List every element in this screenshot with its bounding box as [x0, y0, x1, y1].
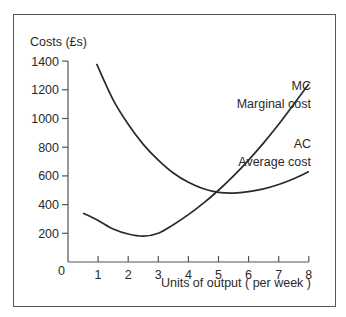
ac-label: AC — [294, 137, 311, 151]
ac-label-desc: Average cost — [238, 155, 311, 169]
y-axis-label: Costs (£s) — [30, 35, 87, 49]
y-tick-label: 1400 — [31, 55, 59, 69]
mc-label: MC — [292, 79, 311, 93]
y-axis: 200400600800100012001400 — [31, 55, 68, 262]
cost-curves-chart: Costs (£s) 200400600800100012001400 1234… — [0, 0, 346, 317]
y-tick-label: 1000 — [31, 112, 59, 126]
y-tick-label: 800 — [38, 141, 59, 155]
ac-curve — [97, 64, 309, 193]
x-tick-label: 1 — [95, 268, 102, 282]
y-tick-label: 1200 — [31, 83, 59, 97]
x-axis-label: Units of output ( per week ) — [161, 276, 311, 290]
y-tick-label: 200 — [38, 227, 59, 241]
y-tick-label: 600 — [38, 169, 59, 183]
mc-label-desc: Marginal cost — [237, 97, 312, 111]
y-tick-label: 400 — [38, 198, 59, 212]
x-tick-label: 2 — [125, 268, 132, 282]
origin-label: 0 — [58, 264, 65, 278]
